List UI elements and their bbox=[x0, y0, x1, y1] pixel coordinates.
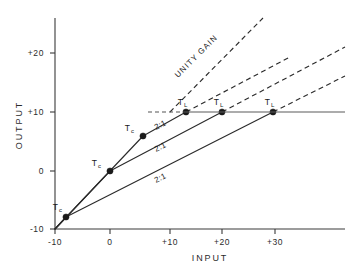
curve3-ratio-label: 2:1 bbox=[153, 171, 168, 185]
x-tick-label-10: +10 bbox=[162, 237, 178, 247]
curve3-limit-label: T bbox=[265, 97, 270, 107]
y-tick-label-minus10: -10 bbox=[30, 224, 44, 234]
curve3-dashed-extension bbox=[273, 76, 345, 112]
compressor-curve-2 bbox=[55, 47, 345, 229]
curve1-threshold-label: T bbox=[125, 123, 130, 133]
curve1-threshold-point bbox=[140, 133, 146, 139]
compressor-curve-3 bbox=[55, 76, 345, 229]
curve1-threshold-label-sub: c bbox=[131, 128, 134, 134]
curve3-threshold-label-sub: c bbox=[59, 207, 62, 213]
curve2-threshold-point bbox=[107, 168, 113, 174]
x-tick-label-30: +30 bbox=[267, 237, 283, 247]
curve2-compression-segment bbox=[110, 112, 222, 171]
y-tick-label-10: +10 bbox=[28, 107, 44, 117]
curve1-limit-label-sub: L bbox=[184, 102, 188, 108]
curve3-threshold-label: T bbox=[53, 202, 58, 212]
curve3-threshold-point bbox=[63, 214, 69, 220]
curve3-limit-label-sub: L bbox=[271, 102, 275, 108]
unity-gain-label: UNITY GAIN bbox=[173, 33, 219, 79]
x-tick-label-0: 0 bbox=[107, 237, 112, 247]
x-axis-title: INPUT bbox=[192, 253, 229, 263]
compressor-transfer-curve-figure: +20 +10 0 -10 -10 0 +10 +20 +30 INPUT OU… bbox=[0, 0, 352, 273]
curve1-limit-label: T bbox=[178, 97, 183, 107]
y-tick-label-20: +20 bbox=[28, 48, 44, 58]
curve2-threshold-label: T bbox=[92, 158, 97, 168]
curve2-limit-label: T bbox=[214, 97, 219, 107]
curve2-dashed-extension bbox=[222, 47, 345, 112]
compressor-curve-1 bbox=[55, 57, 290, 229]
y-axis-title: OUTPUT bbox=[14, 101, 24, 149]
x-tick-label-minus10: -10 bbox=[48, 237, 62, 247]
threshold-labels-group: T c T c T c bbox=[53, 123, 134, 213]
limit-labels-group: T L T L T L bbox=[178, 97, 275, 108]
curve1-ratio-label: 2:1 bbox=[153, 118, 168, 132]
plot-canvas: +20 +10 0 -10 -10 0 +10 +20 +30 INPUT OU… bbox=[0, 0, 352, 273]
curve2-threshold-label-sub: c bbox=[98, 163, 101, 169]
y-tick-label-0: 0 bbox=[39, 166, 44, 176]
x-axis-ticks bbox=[55, 229, 275, 234]
curve2-limit-label-sub: L bbox=[220, 102, 224, 108]
ratio-labels-group: 2:1 2:1 2:1 bbox=[153, 118, 168, 185]
x-tick-label-20: +20 bbox=[214, 237, 230, 247]
